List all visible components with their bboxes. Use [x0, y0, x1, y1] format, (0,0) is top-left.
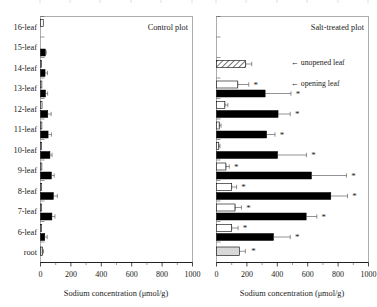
x-axis-tick-label: 200: [241, 270, 253, 279]
bar-unopened-leaf-open: [41, 143, 42, 150]
bar-unopened-leaf-open: [217, 102, 225, 109]
x-axis-tick-label: 600: [126, 270, 138, 279]
significance-star: *: [243, 223, 248, 233]
y-axis-labels: 16-leaf15-leaf14-leaf13-leaf12-leaf11-le…: [14, 23, 38, 258]
bar-leaf-blade-filled: [217, 193, 331, 200]
bar-unopened-leaf-open: [217, 225, 232, 232]
bar-unopened-leaf-open: [217, 81, 238, 88]
control-xaxis-title: Sodium concentration (μmol/g): [64, 289, 169, 298]
salt-plot-title: Salt-treated plot: [311, 23, 365, 32]
bar-unopened-leaf-open: [41, 81, 42, 88]
bar-leaf-blade-filled: [41, 90, 46, 97]
y-axis-category-label: 9-leaf: [18, 166, 38, 175]
control-bars: [41, 17, 58, 263]
significance-star: *: [241, 182, 246, 192]
bar-leaf-blade-filled: [217, 172, 312, 179]
bar-unopened-leaf-open: [41, 122, 42, 129]
bar-leaf-blade-filled: [217, 152, 278, 159]
x-axis-tick-label: 1000: [185, 270, 201, 279]
figure-container: Control plot 02004006008001000 Sodium co…: [0, 0, 377, 307]
salt-xaxis-title: Sodium concentration (μmol/g): [240, 289, 345, 298]
salt-plot-frame: [217, 17, 369, 263]
bar-unopened-leaf-open: [41, 61, 42, 68]
bar-leaf-blade-filled: [41, 111, 48, 118]
bar-leaf-blade-filled: [41, 193, 54, 200]
bar-unopened-leaf-hatched: [217, 61, 246, 68]
control-plot-frame: [41, 17, 193, 263]
significance-star: *: [352, 191, 357, 201]
x-axis-tick-label: 200: [65, 270, 77, 279]
bar-leaf-blade-filled: [41, 152, 50, 159]
significance-star: *: [280, 130, 285, 140]
y-axis-category-label: 14-leaf: [14, 64, 38, 73]
salt-bars: **************: [217, 17, 358, 263]
salt-annotations: ← unopened leaf← opening leaf: [291, 58, 345, 89]
bar-unopened-leaf-open: [217, 143, 219, 150]
x-axis-tick-label: 800: [156, 270, 168, 279]
y-axis-category-label: 8-leaf: [18, 187, 38, 196]
bar-unopened-leaf-open: [41, 225, 42, 232]
x-axis-tick-label: 1000: [361, 270, 377, 279]
y-axis-category-label: 10-leaf: [14, 146, 38, 155]
significance-star: *: [322, 212, 327, 222]
bar-leaf-blade-filled: [41, 234, 45, 241]
significance-star: *: [311, 150, 316, 160]
significance-star: *: [234, 162, 239, 172]
bar-unopened-leaf-open: [217, 163, 226, 170]
significance-star: *: [351, 171, 356, 181]
panel-control: Control plot 02004006008001000 Sodium co…: [39, 17, 201, 299]
panel-salt: Salt-treated plot ************** 0200400…: [215, 17, 377, 299]
bar-unopened-leaf-open: [217, 184, 232, 191]
bar-leaf-blade-filled: [217, 131, 267, 138]
bar-leaf-blade-filled: [41, 131, 49, 138]
x-axis-tick-label: 400: [95, 270, 107, 279]
bar-leaf-blade-filled: [217, 213, 307, 220]
bar-leaf-blade-filled: [41, 70, 46, 77]
control-xaxis: 02004006008001000: [39, 263, 201, 279]
annotation-label-unopened-leaf: ← unopened leaf: [291, 58, 345, 67]
significance-star: *: [296, 89, 301, 99]
bar-unopened-leaf-open: [41, 102, 43, 109]
control-plot-title: Control plot: [148, 23, 189, 32]
annotation-label-opening-leaf: ← opening leaf: [291, 79, 340, 88]
sodium-concentration-chart: Control plot 02004006008001000 Sodium co…: [0, 0, 377, 307]
significance-star: *: [251, 246, 256, 256]
bar-leaf-blade-filled: [217, 111, 279, 118]
x-axis-tick-label: 600: [302, 270, 314, 279]
y-axis-category-label: 6-leaf: [18, 228, 38, 237]
bar-leaf-blade-filled: [217, 234, 274, 241]
bar-leaf-blade-filled: [41, 49, 46, 56]
bar-leaf-blade-filled: [217, 90, 266, 97]
x-axis-tick-label: 400: [271, 270, 283, 279]
bar-root-gray: [41, 247, 43, 256]
x-axis-tick-label: 0: [215, 270, 219, 279]
y-axis-category-label: 16-leaf: [14, 23, 38, 32]
bar-unopened-leaf-open: [41, 20, 44, 27]
y-axis-category-label: 12-leaf: [14, 105, 38, 114]
bar-unopened-leaf-open: [217, 204, 236, 211]
salt-xaxis: 02004006008001000: [215, 263, 377, 279]
y-axis-category-label: 7-leaf: [18, 207, 38, 216]
x-axis-tick-label: 0: [39, 270, 43, 279]
bar-unopened-leaf-open: [41, 184, 42, 191]
bar-unopened-leaf-open: [41, 204, 42, 211]
bar-unopened-leaf-open: [217, 122, 220, 129]
y-axis-category-label: 13-leaf: [14, 84, 38, 93]
y-axis-category-label: 15-leaf: [14, 43, 38, 52]
y-axis-category-label: root: [24, 248, 38, 257]
significance-star: *: [246, 203, 251, 213]
bar-leaf-blade-filled: [41, 213, 52, 220]
bar-leaf-blade-filled: [41, 172, 52, 179]
significance-star: *: [295, 109, 300, 119]
significance-star: *: [295, 232, 300, 242]
bar-unopened-leaf-open: [41, 163, 42, 170]
top-cropped-ticks: [40, 0, 368, 3]
significance-star: *: [253, 80, 258, 90]
x-axis-tick-label: 800: [332, 270, 344, 279]
bar-root-gray: [217, 247, 240, 256]
y-axis-category-label: 11-leaf: [14, 125, 37, 134]
